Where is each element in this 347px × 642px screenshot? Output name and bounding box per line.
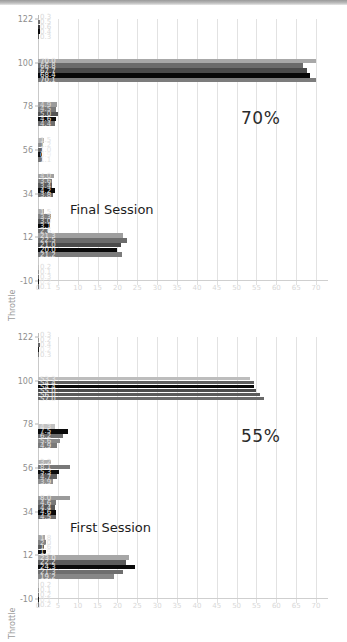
x-axis-tick-label: 25: [133, 602, 142, 610]
y-axis-tick-label: 78: [23, 102, 33, 111]
session-label: Final Session: [70, 202, 154, 217]
y-axis-tick-label: 56: [23, 146, 33, 155]
x-axis-tick-label: 60: [272, 284, 281, 292]
bar: [38, 265, 39, 270]
y-axis-title: Throttle: [8, 290, 17, 321]
plot-area-first-session: 0510152025303540455055606570-10123456781…: [38, 337, 328, 599]
x-axis-tick-label: 25: [133, 284, 142, 292]
grid-line-vertical: [256, 337, 257, 599]
x-axis-tick-label: 40: [192, 284, 201, 292]
x-axis-line: [38, 598, 328, 599]
bar-value-label: 4.4: [40, 120, 51, 127]
y-axis-tick-label: 78: [23, 420, 33, 429]
bar: [38, 34, 39, 39]
bar-value-label: 3.8: [40, 192, 51, 199]
y-axis-tick-label: 34: [23, 507, 33, 516]
x-axis-tick-label: 35: [173, 602, 182, 610]
bar-value-label: 57.0: [40, 395, 56, 402]
percent-annotation: 70%: [241, 108, 280, 128]
x-axis-tick-label: 35: [173, 284, 182, 292]
y-axis-tick-label: 12: [23, 551, 33, 560]
y-axis-tick-label: 100: [18, 376, 33, 385]
x-axis-tick-label: 55: [252, 602, 261, 610]
y-axis-tick-label: 100: [18, 58, 33, 67]
bar-value-label: 0.1: [40, 283, 51, 290]
bar: [38, 284, 39, 289]
bar-value-label: 4.5: [40, 514, 51, 521]
y-axis-title: Throttle: [8, 608, 17, 639]
x-axis-tick-label: 70: [312, 602, 321, 610]
bar-value-label: 70.1: [40, 77, 56, 84]
grid-line-vertical: [316, 337, 317, 599]
bar: [38, 78, 316, 83]
bar-value-label: 19.2: [40, 573, 56, 580]
x-axis-tick-label: 15: [93, 284, 102, 292]
y-axis-tick-label: 56: [23, 464, 33, 473]
x-axis-tick-label: 20: [113, 284, 122, 292]
bar-value-label: 3.9: [40, 478, 51, 485]
x-axis-tick-label: 10: [73, 284, 82, 292]
y-axis-tick-label: 122: [18, 15, 33, 24]
plot-area-final-session: 0510152025303540455055606570-10123456781…: [38, 19, 328, 281]
x-axis-tick-label: 55: [252, 284, 261, 292]
bar-value-label: 0.2: [40, 601, 51, 608]
grid-line-vertical: [316, 19, 317, 281]
bar-value-label: 0.3: [40, 351, 51, 358]
grid-line-vertical: [296, 337, 297, 599]
bar: [38, 583, 39, 588]
chart-panel-final-session: 0510152025303540455055606570-10123456781…: [0, 5, 347, 323]
bar: [38, 602, 39, 607]
x-axis-tick-label: 5: [56, 284, 60, 292]
y-axis-tick-label: -10: [20, 595, 33, 604]
x-axis-tick-label: 50: [232, 602, 241, 610]
bar-value-label: 1.1: [40, 156, 51, 163]
x-axis-tick-label: 65: [292, 284, 301, 292]
percent-annotation: 55%: [241, 426, 280, 446]
x-axis-tick-label: 70: [312, 284, 321, 292]
x-axis-tick-label: 50: [232, 284, 241, 292]
y-axis-tick-label: 122: [18, 333, 33, 342]
bar-value-label: 21.2: [40, 251, 56, 258]
session-label: First Session: [70, 520, 151, 535]
x-axis-tick-label: 45: [212, 602, 221, 610]
x-axis-tick-label: 15: [93, 602, 102, 610]
x-axis-line: [38, 280, 328, 281]
bar-value-label: 4.9: [40, 442, 51, 449]
x-axis-tick-label: 5: [56, 602, 60, 610]
x-axis-tick-label: 20: [113, 602, 122, 610]
x-axis-tick-label: 45: [212, 284, 221, 292]
x-axis-tick-label: 30: [153, 602, 162, 610]
chart-panel-first-session: 0510152025303540455055606570-10123456781…: [0, 323, 347, 642]
bar: [38, 397, 264, 401]
y-axis-tick-label: 12: [23, 233, 33, 242]
bar: [38, 352, 39, 357]
bar: [38, 63, 303, 68]
x-axis-tick-label: 65: [292, 602, 301, 610]
x-axis-tick-label: 40: [192, 602, 201, 610]
y-axis-tick-label: -10: [20, 277, 33, 286]
y-axis-tick-label: 34: [23, 189, 33, 198]
x-axis-tick-label: 30: [153, 284, 162, 292]
figure-canvas: 0510152025303540455055606570-10123456781…: [0, 5, 347, 642]
x-axis-tick-label: 60: [272, 602, 281, 610]
bar-value-label: 0.3: [40, 33, 51, 40]
grid-line-vertical: [276, 337, 277, 599]
x-axis-tick-label: 10: [73, 602, 82, 610]
